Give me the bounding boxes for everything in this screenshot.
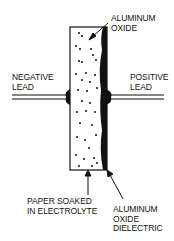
- negative-lead-wire: [12, 95, 70, 99]
- dielectric-arrow: [107, 170, 123, 199]
- label-negative-lead: NEGATIVE LEAD: [12, 73, 54, 92]
- label-dielectric: ALUMINUM OXIDE DIELECTRIC: [113, 205, 163, 234]
- positive-lead-wire: [108, 95, 164, 99]
- label-aluminum-oxide: ALUMINUM OXIDE: [111, 14, 156, 33]
- paper-arrow: [85, 170, 91, 195]
- label-paper-soaked: PAPER SOAKED IN ELECTROLYTE: [27, 197, 97, 216]
- negative-lead-joint: [66, 89, 71, 105]
- label-positive-lead: POSITIVE LEAD: [130, 73, 168, 92]
